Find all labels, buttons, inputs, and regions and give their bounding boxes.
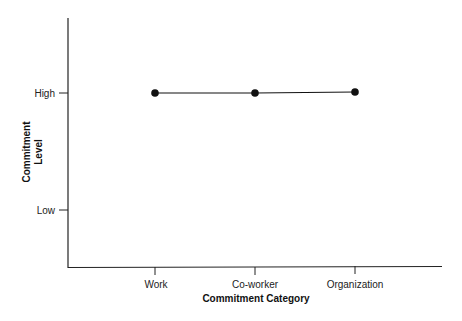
x-tick-label-organization: Organization	[327, 279, 384, 290]
y-axis-title-line1: Commitment	[21, 121, 32, 183]
data-point-coworker	[251, 89, 259, 97]
y-axis-title: Commitment Level	[21, 121, 44, 183]
x-axis-title: Commitment Category	[202, 293, 310, 304]
y-tick-label-high: High	[34, 88, 55, 99]
data-point-work	[151, 89, 159, 97]
y-axis-title-line2: Level	[33, 139, 44, 165]
x-tick-label-work: Work	[144, 279, 168, 290]
x-tick-label-coworker: Co-worker	[232, 279, 279, 290]
y-tick-label-low: Low	[37, 205, 56, 216]
data-point-organization	[351, 88, 359, 96]
chart: High Low Work Co-worker Organization Com…	[0, 0, 462, 321]
